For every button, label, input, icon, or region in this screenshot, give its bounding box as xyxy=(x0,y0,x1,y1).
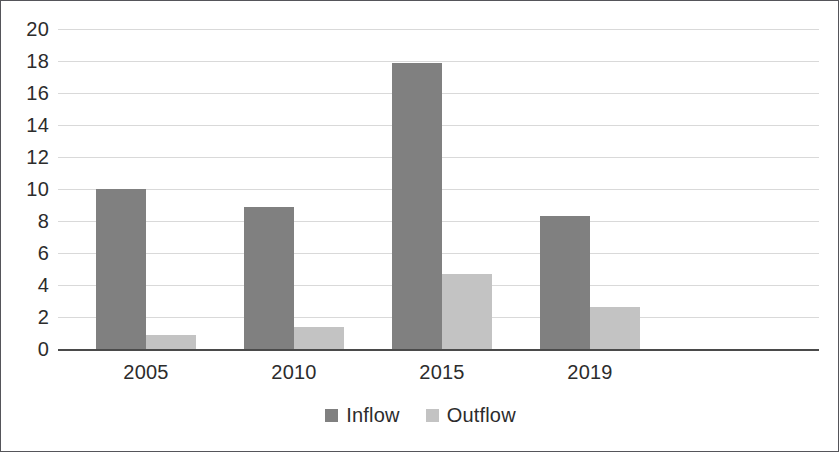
legend-swatch-icon-outflow xyxy=(426,409,439,422)
x-tick-label-2010: 2010 xyxy=(271,359,316,386)
x-axis-line xyxy=(58,349,819,351)
bar-outflow-2005 xyxy=(146,335,196,349)
legend-entry-inflow[interactable]: Inflow xyxy=(325,405,399,425)
y-axis-tick-labels: 02468101214161820 xyxy=(1,1,49,452)
y-tick-label-16: 16 xyxy=(5,83,49,103)
y-tick-label-14: 14 xyxy=(5,115,49,135)
y-tick-label-10: 10 xyxy=(5,179,49,199)
x-tick-label-2005: 2005 xyxy=(123,359,168,386)
y-tick-label-0: 0 xyxy=(5,339,49,359)
legend-label-inflow: Inflow xyxy=(346,405,399,425)
y-tick-label-12: 12 xyxy=(5,147,49,167)
y-tick-label-6: 6 xyxy=(5,243,49,263)
y-tick-label-18: 18 xyxy=(5,51,49,71)
bar-outflow-2015 xyxy=(442,274,492,349)
bar-inflow-2015 xyxy=(392,63,442,349)
bar-inflow-2010 xyxy=(244,207,294,349)
y-tick-label-4: 4 xyxy=(5,275,49,295)
legend-label-outflow: Outflow xyxy=(447,405,516,425)
legend-swatch-icon-inflow xyxy=(325,409,338,422)
chart-frame: 02468101214161820 2005201020152019 Inflo… xyxy=(0,0,839,452)
x-axis-tick-labels: 2005201020152019 xyxy=(58,359,819,393)
x-tick-label-2019: 2019 xyxy=(567,359,612,386)
legend-entry-outflow[interactable]: Outflow xyxy=(426,405,516,425)
y-tick-label-20: 20 xyxy=(5,19,49,39)
y-tick-label-8: 8 xyxy=(5,211,49,231)
plot-area xyxy=(58,29,819,349)
bar-inflow-2019 xyxy=(540,216,590,349)
bar-inflow-2005 xyxy=(96,189,146,349)
y-tick-label-2: 2 xyxy=(5,307,49,327)
chart-legend: InflowOutflow xyxy=(1,405,839,425)
x-tick-label-2015: 2015 xyxy=(419,359,464,386)
bar-outflow-2019 xyxy=(590,307,640,349)
bar-outflow-2010 xyxy=(294,327,344,349)
gridline-20 xyxy=(58,29,819,30)
